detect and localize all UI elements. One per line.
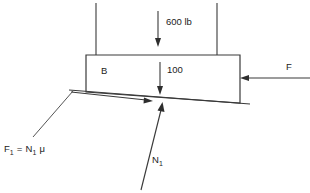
normal-force-arrowhead: [158, 102, 165, 112]
friction-force-arrowhead: [144, 98, 154, 104]
internal-load-label: 100: [167, 65, 183, 75]
friction-force-label: F1 = N1 μ: [4, 144, 45, 154]
normal-force-shaft: [141, 110, 161, 190]
block-label: B: [101, 66, 107, 76]
applied-load-label: 600 lb: [166, 17, 192, 27]
normal-force-label: N1: [152, 155, 163, 165]
free-body-diagram: 600 lb B 100 F F1 = N1 μ N1: [0, 0, 310, 193]
push-force-label: F: [286, 62, 292, 72]
normal-symbol-subscript: 1: [159, 160, 163, 167]
push-force-arrowhead: [240, 75, 249, 81]
applied-load-arrowhead: [155, 38, 161, 47]
normal-symbol: N: [152, 154, 159, 165]
friction-mu-symbol: μ: [39, 143, 44, 154]
friction-label-leader-line: [33, 91, 73, 137]
